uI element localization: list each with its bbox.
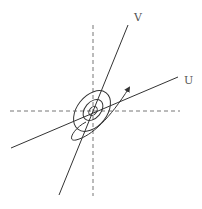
u-axis-label: U: [184, 74, 193, 87]
u-axis-line: [11, 77, 178, 148]
v-axis-label: V: [133, 11, 143, 24]
diagram-svg: V U: [0, 0, 202, 209]
v-axis-line: [59, 25, 128, 195]
diagram-canvas: V U: [0, 0, 202, 209]
